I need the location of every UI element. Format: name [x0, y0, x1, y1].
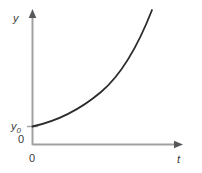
figure-background — [0, 0, 202, 173]
y-origin-tick-label: 0 — [18, 133, 24, 145]
graph-canvas: y t y0 0 0 — [0, 0, 202, 173]
graph-figure: y t y0 0 0 — [0, 0, 202, 173]
x-origin-tick-label: 0 — [29, 152, 35, 164]
